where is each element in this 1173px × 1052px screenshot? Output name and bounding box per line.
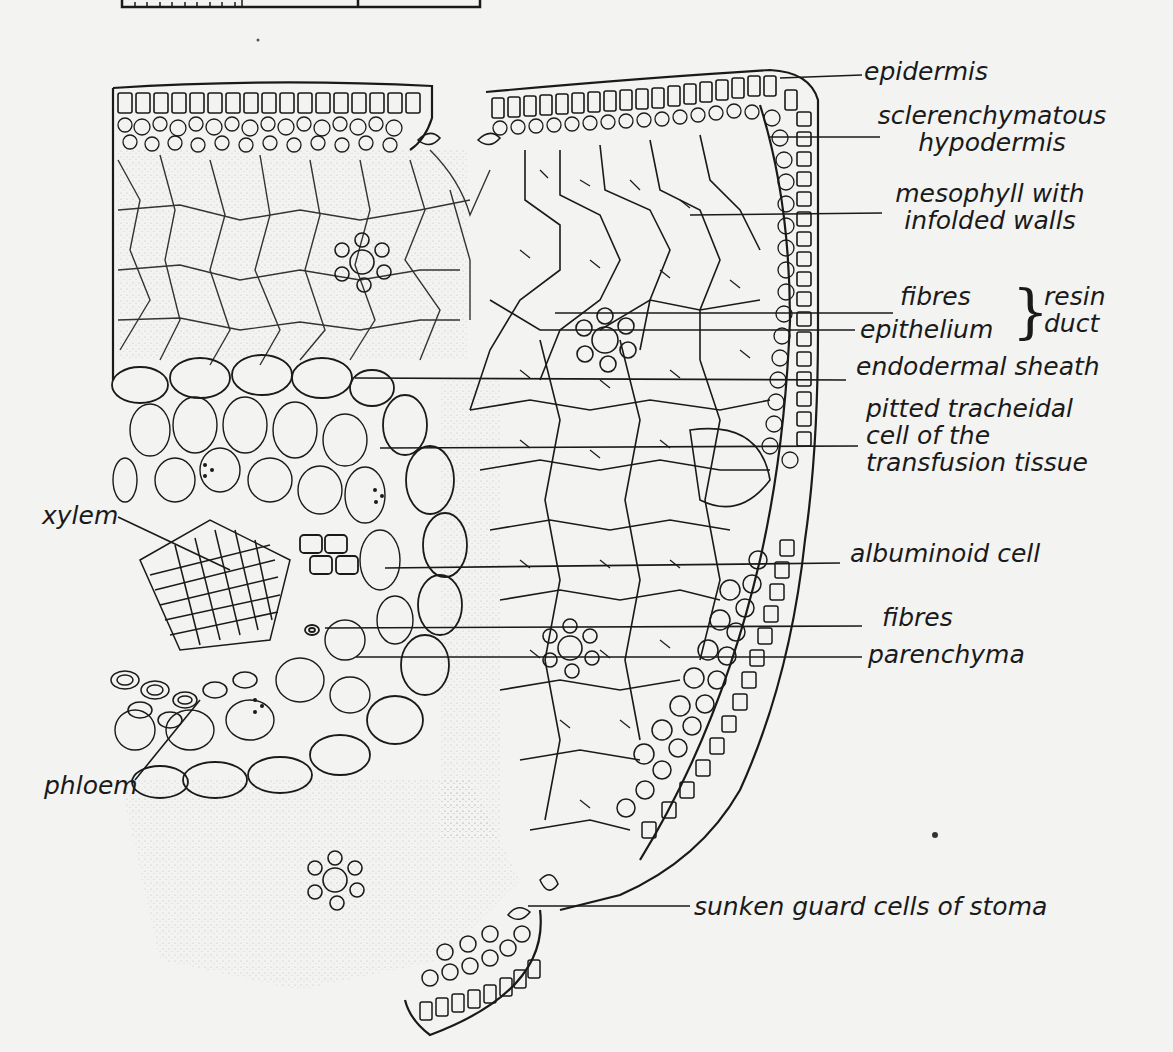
label-resin-duct-group: resin duct <box>1044 283 1105 337</box>
xylem <box>140 520 290 650</box>
epidermis-left <box>118 93 500 152</box>
label-resin-duct-epithelium: epithelium <box>860 316 993 343</box>
speck <box>932 832 938 838</box>
label-parenchyma: parenchyma <box>868 641 1025 668</box>
label-mesophyll: mesophyll with infolded walls <box>880 180 1100 234</box>
label-xylem: xylem <box>42 502 118 529</box>
label-sclerenchymatous-hypodermis: sclerenchymatous hypodermis <box>872 102 1112 156</box>
hypodermis-lower-right <box>617 540 794 838</box>
label-transfusion-tracheid: pitted tracheidal cell of the transfusio… <box>866 395 1088 476</box>
speck <box>257 39 260 42</box>
label-guard-cells: sunken guard cells of stoma <box>694 893 1047 920</box>
label-resin-duct-fibres: fibres <box>900 283 971 310</box>
epidermis-right <box>492 76 811 468</box>
label-albuminoid-cell: albuminoid cell <box>850 540 1040 567</box>
label-endodermal-sheath: endodermal sheath <box>856 353 1100 380</box>
needle-section-diagram: epidermis sclerenchymatous hypodermis me… <box>0 0 1173 1052</box>
label-fibres: fibres <box>882 604 953 631</box>
mesophyll-right <box>470 135 770 830</box>
scale-bar <box>122 0 480 7</box>
resin-duct-right <box>576 308 636 372</box>
label-phloem: phloem <box>44 772 138 799</box>
transfusion-tissue <box>112 355 467 798</box>
label-epidermis: epidermis <box>864 58 988 85</box>
